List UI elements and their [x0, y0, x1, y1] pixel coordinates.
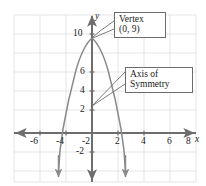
x-tick-label-8: 8	[186, 136, 191, 146]
axis-callout-line-1: Axis of	[130, 69, 189, 79]
x-tick-label-neg2: -2	[82, 136, 90, 146]
figure-container: Vertex (0, 9) Axis of Symmetry -6 -4 -2 …	[0, 0, 206, 186]
vertex-callout-line-1: Vertex	[119, 14, 162, 24]
x-tick-label-2: 2	[115, 136, 120, 146]
y-tick-label-2: 2	[80, 104, 85, 114]
vertex-leader-line	[92, 21, 114, 38]
grid-lines	[14, 15, 196, 182]
axis-callout-line-2: Symmetry	[130, 79, 189, 89]
x-tick-label-6: 6	[167, 136, 172, 146]
vertex-callout-line-2: (0, 9)	[119, 24, 162, 34]
x-axis-letter: x	[195, 134, 199, 144]
y-tick-label-10: 10	[73, 28, 83, 38]
x-tick-label-4: 4	[141, 136, 146, 146]
axis-of-symmetry-callout-box: Axis of Symmetry	[125, 67, 193, 93]
y-tick-label-4: 4	[80, 85, 85, 95]
x-tick-label-neg6: -6	[30, 136, 38, 146]
graph-canvas	[0, 0, 206, 186]
y-tick-label-neg2: -2	[76, 146, 84, 156]
x-tick-label-neg4: -4	[56, 136, 64, 146]
y-axis-letter: y	[95, 11, 99, 21]
axis-symmetry-leader-line	[92, 72, 125, 106]
axis-lines	[14, 16, 196, 182]
y-tick-label-6: 6	[80, 66, 85, 76]
vertex-callout-box: Vertex (0, 9)	[114, 12, 166, 38]
